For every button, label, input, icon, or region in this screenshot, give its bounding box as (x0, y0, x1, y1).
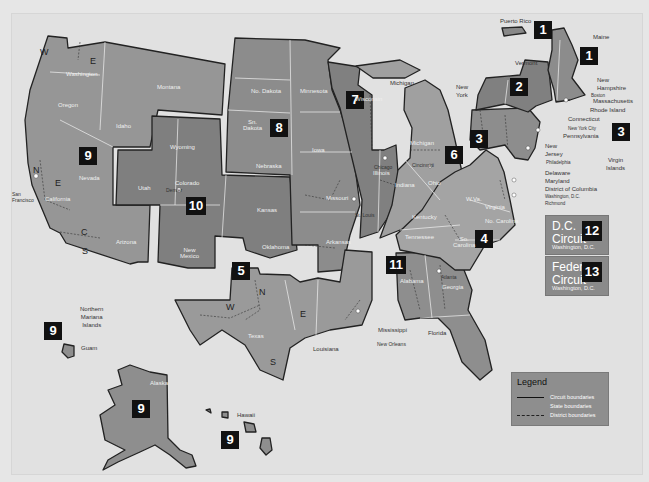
state-label-oregon: Oregon (58, 102, 78, 108)
state-label-arizona: Arizona (116, 239, 136, 245)
state-label-alabama: Alabama (400, 278, 424, 284)
state-label-oklahoma: Oklahoma (262, 244, 289, 250)
state-label-montana: Montana (157, 84, 180, 90)
label-new-york-city: New York City (568, 126, 596, 131)
circuit-9-badge-hawaii: 9 (221, 431, 239, 449)
label-louisiana: Louisiana (313, 346, 339, 352)
circuit-1-badge-puerto-rico: 1 (534, 21, 552, 39)
label-vermont: Vermont (515, 60, 537, 66)
label-philadelphia: Philadelphia (546, 160, 571, 165)
state-label-california: California (45, 196, 70, 202)
solid-thick-line-icon (517, 397, 544, 398)
state-label-arkansas: Arkansas (326, 239, 351, 245)
label-rhode-island: Rhode Island (590, 107, 625, 113)
st-louis-star (352, 197, 356, 201)
state-label-washington: Washington (66, 71, 97, 77)
label-district-of-columbia: District of Columbia (545, 186, 597, 192)
circuit-2-badge: 2 (510, 78, 528, 96)
state-label-west-virginia: W.Va. (466, 196, 482, 202)
label-maryland: Maryland (545, 178, 570, 184)
state-label-ohio: Ohio (428, 180, 441, 186)
state-label-sn-dakota: Sn. Dakota (243, 119, 262, 131)
state-label-minnesota: Minnesota (300, 88, 328, 94)
state-label-colorado: Colorado (175, 180, 199, 186)
circuit-5-badge: 5 (232, 262, 250, 280)
circuit-13-badge: 13 (582, 262, 602, 282)
state-label-idaho: Idaho (116, 123, 131, 129)
label-maine: Maine (593, 34, 609, 40)
label-denver: Denver (166, 187, 182, 193)
legend-item-state: State boundaries (517, 403, 592, 409)
label-chicago: Chicago (374, 164, 392, 170)
dashed-line-icon (517, 415, 544, 416)
philadelphia-star (526, 146, 530, 150)
label-new-york: New York (456, 83, 468, 99)
atlanta-star (437, 269, 441, 273)
state-label-tennessee: Tennessee (405, 234, 434, 240)
state-label-missouri: Missouri (326, 195, 348, 201)
state-label-nevada: Nevada (79, 175, 100, 181)
circuit-3-badge-virgin-islands: 3 (612, 123, 630, 141)
label-new-orleans: New Orleans (377, 341, 406, 347)
puerto-rico-shape (502, 27, 526, 36)
label-guam: Guam (81, 345, 97, 351)
label-san-francisco: San Francisco (12, 191, 34, 203)
state-label-no-carolina: No. Carolina (485, 218, 518, 224)
state-label-wisconsin: Wisconsin (355, 96, 382, 102)
label-pennsylvania: Pennsylvania (563, 133, 599, 139)
state-label-kentucky: Kentucky (412, 214, 437, 220)
label-st-louis: St. Louis (355, 212, 374, 218)
label-cincinnati: Cincinnati (412, 162, 434, 168)
dc-circuit-box: D.C.Circuit 12 Washington, D.C. (545, 215, 609, 255)
circuit-9-badge-guam: 9 (44, 322, 62, 340)
label-atlanta: Atlanta (441, 274, 457, 280)
label-richmond: Richmond (545, 201, 565, 206)
dc-circuit-location: Washington, D.C. (552, 244, 595, 250)
label-puerto-rico: Puerto Rico (500, 18, 531, 24)
state-label-michigan-lower: Michigan (410, 140, 434, 146)
label-hawaii: Hawaii (237, 412, 255, 418)
circuit-12-badge: 12 (582, 221, 602, 241)
label-northern-mariana-islands: Northern Mariana Islands (80, 305, 103, 329)
new-york-city-star (536, 128, 540, 132)
washington-dc-star (512, 178, 516, 182)
label-connecticut: Connecticut (568, 116, 600, 122)
state-label-indiana: Indiana (395, 182, 415, 188)
federal-circuit-location: Washington, D.C. (552, 285, 595, 291)
label-delaware: Delaware (545, 170, 570, 176)
richmond-star (512, 193, 516, 197)
state-label-utah: Utah (138, 185, 151, 191)
state-label-nebraska: Nebraska (256, 163, 282, 169)
state-label-iowa: Iowa (312, 147, 325, 153)
state-label-texas: Texas (248, 333, 264, 339)
circuit-9-badge-alaska: 9 (132, 400, 150, 418)
circuit-4-badge: 4 (475, 230, 493, 248)
label-mississippi: Mississippi (378, 327, 407, 333)
circuit-1-badge: 1 (580, 47, 598, 65)
state-label-so-carolina: So. Carolina (453, 236, 475, 248)
state-label-alaska: Alaska (150, 380, 168, 386)
circuit-9-badge: 9 (79, 147, 97, 165)
legend-item-district: District boundaries (517, 412, 596, 418)
circuit-8-badge: 8 (270, 119, 288, 137)
state-label-new-mexico: New Mexico (180, 247, 199, 259)
circuit-10-badge: 10 (186, 197, 206, 215)
state-label-kansas: Kansas (257, 207, 277, 213)
state-label-wyoming: Wyoming (170, 144, 195, 150)
label-virgin-islands: Virgin Islands (606, 156, 625, 172)
circuit-1-region (548, 28, 585, 102)
chicago-star (383, 156, 387, 160)
state-label-illinois: Illinois (373, 170, 390, 176)
label-florida: Florida (428, 330, 446, 336)
boston-star (564, 98, 568, 102)
label-massachusetts: Massachusetts (593, 98, 633, 104)
state-label-no-dakota: No. Dakota (251, 88, 281, 94)
federal-circuit-box: FederalCircuit 13 Washington, D.C. (545, 256, 609, 296)
legend-title: Legend (517, 377, 547, 387)
legend-item-circuit: Circuit boundaries (517, 394, 594, 400)
map-legend: Legend Circuit boundaries State boundari… (511, 372, 609, 426)
dc-circuit-name: D.C.Circuit (552, 220, 586, 246)
label-new-jersey: New Jersey (545, 142, 563, 158)
label-new-hampshire: New Hampshire (597, 76, 626, 92)
state-label-virginia: Virginia (485, 204, 505, 210)
